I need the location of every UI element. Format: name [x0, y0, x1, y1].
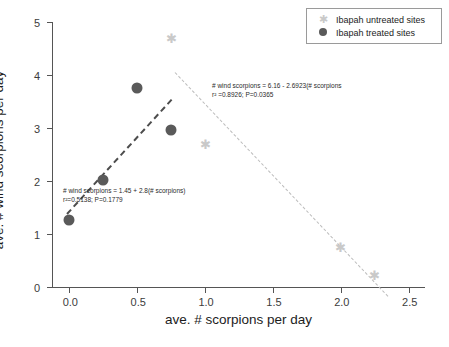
legend-item-untreated: Ibapah untreated sites — [310, 13, 437, 26]
y-tick-label: 3 — [34, 123, 40, 135]
y-tick-label: 1 — [34, 229, 40, 241]
legend-item-treated: Ibapah treated sites — [310, 26, 437, 39]
scatter-plot-figure: 0123450.00.51.01.52.02.5 ave. # wind sco… — [0, 0, 449, 347]
circle-icon — [310, 26, 336, 39]
y-axis-label: ave. # wind scorpions per day — [0, 70, 6, 249]
y-tick-label: 4 — [34, 70, 40, 82]
legend-label-treated: Ibapah treated sites — [336, 28, 415, 38]
y-tick: 1 — [47, 234, 53, 235]
x-tick: 2.0 — [341, 287, 342, 293]
y-tick-label: 5 — [34, 17, 40, 29]
x-tick: 2.5 — [409, 287, 410, 293]
y-tick: 4 — [47, 75, 53, 76]
data-point-untreated — [369, 270, 380, 281]
legend: Ibapah untreated sites Ibapah treated si… — [306, 8, 442, 44]
data-point-treated — [64, 214, 75, 225]
x-tick: 0.0 — [69, 287, 70, 293]
x-tick-label: 1.0 — [198, 296, 213, 308]
x-tick: 0.5 — [137, 287, 138, 293]
regression-line-untreated — [175, 72, 389, 297]
annotation-untreated-regression: # wind scorpions = 6.16 - 2.6923(# scorp… — [212, 81, 342, 100]
data-point-untreated — [335, 242, 346, 253]
x-tick: 1.0 — [205, 287, 206, 293]
y-tick-label: 2 — [34, 176, 40, 188]
y-tick-label: 0 — [34, 282, 40, 294]
y-tick: 3 — [47, 128, 53, 129]
data-point-untreated — [166, 32, 177, 43]
data-point-treated — [98, 174, 109, 185]
annotation-treated-stats: r²=0.5138; P=0.1779 — [63, 195, 185, 204]
data-point-untreated — [200, 138, 211, 149]
data-point-treated — [166, 124, 177, 135]
y-tick: 5 — [47, 22, 53, 23]
plot-area: 0123450.00.51.01.52.02.5 — [52, 22, 425, 288]
annotation-untreated-equation: # wind scorpions = 6.16 - 2.6923(# scorp… — [212, 81, 342, 90]
annotation-treated-equation: # wind scorpions = 1.45 + 2.8(# scorpion… — [63, 186, 185, 195]
x-tick-label: 2.0 — [334, 296, 349, 308]
data-point-treated — [132, 83, 143, 94]
annotation-untreated-stats: r² =0.8926; P=0.0365 — [212, 90, 342, 99]
y-tick: 2 — [47, 181, 53, 182]
x-axis-label: ave. # scorpions per day — [52, 312, 425, 327]
x-tick: 1.5 — [273, 287, 274, 293]
annotation-treated-regression: # wind scorpions = 1.45 + 2.8(# scorpion… — [63, 186, 185, 205]
x-tick-label: 0.5 — [131, 296, 146, 308]
star-icon — [310, 13, 336, 26]
x-tick-label: 0.0 — [63, 296, 78, 308]
x-tick-label: 1.5 — [266, 296, 281, 308]
x-tick-label: 2.5 — [402, 296, 417, 308]
legend-label-untreated: Ibapah untreated sites — [336, 15, 425, 25]
y-tick: 0 — [47, 287, 53, 288]
